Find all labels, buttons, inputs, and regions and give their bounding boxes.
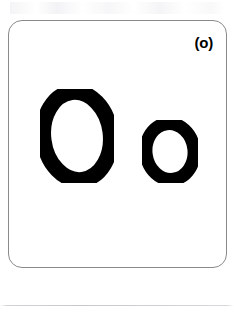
letter-o-lowercase-glyph xyxy=(142,120,198,183)
letter-pair: O o xyxy=(9,21,226,267)
page-canvas: (o) O o xyxy=(0,0,234,317)
letter-o-uppercase-glyph xyxy=(40,89,114,183)
letter-o-uppercase-text: O xyxy=(9,21,10,22)
footer-divider xyxy=(0,305,234,306)
letter-o-lowercase-text: o xyxy=(9,21,10,22)
letter-flashcard[interactable]: (o) O o xyxy=(8,20,227,268)
scan-artifact xyxy=(10,2,224,14)
